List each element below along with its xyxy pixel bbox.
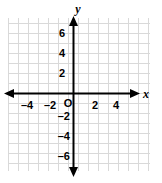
y-axis-label: y xyxy=(73,2,81,16)
x-tick-label-neg4: –4 xyxy=(21,99,34,111)
x-axis-label: x xyxy=(142,87,149,101)
y-axis-bottom-arrowhead xyxy=(69,167,78,177)
y-axis-top-arrowhead xyxy=(69,16,78,26)
y-tick-label-4: 4 xyxy=(59,47,66,59)
y-tick-label-2: 2 xyxy=(59,67,65,79)
coordinate-plane-figure: x y O –4 –2 2 4 6 4 2 –2 –4 –6 xyxy=(0,0,162,183)
x-tick-label-neg2: –2 xyxy=(44,99,56,111)
y-tick-label-6: 6 xyxy=(59,27,65,39)
y-tick-label-neg2: –2 xyxy=(58,110,70,122)
x-tick-label-4: 4 xyxy=(113,99,120,111)
coordinate-grid-svg: x y O –4 –2 2 4 6 4 2 –2 –4 –6 xyxy=(0,0,162,183)
x-tick-label-2: 2 xyxy=(92,99,98,111)
y-tick-label-neg4: –4 xyxy=(58,130,71,142)
y-tick-label-neg6: –6 xyxy=(58,150,70,162)
origin-label: O xyxy=(64,97,73,109)
